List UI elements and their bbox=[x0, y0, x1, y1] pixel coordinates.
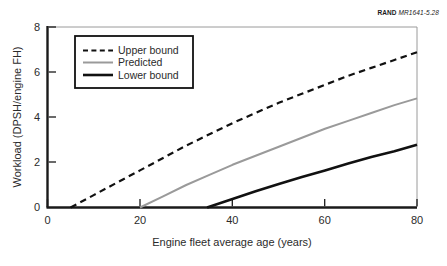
series-lower-bound bbox=[207, 145, 417, 208]
figure-container: RAND MR1641-5.28 8 6 4 2 0 bbox=[0, 0, 447, 266]
legend-label-lower-bound: Lower bound bbox=[118, 69, 179, 81]
x-tick-label-20: 20 bbox=[134, 214, 146, 226]
x-tick-label-0: 0 bbox=[44, 214, 50, 226]
line-chart: 8 6 4 2 0 0 20 40 60 80 Engine fleet ave… bbox=[0, 0, 447, 266]
x-tick-label-60: 60 bbox=[319, 214, 331, 226]
x-tick-label-80: 80 bbox=[411, 214, 423, 226]
x-axis-title: Engine fleet average age (years) bbox=[152, 236, 312, 248]
y-tick-label-6: 6 bbox=[34, 66, 40, 78]
y-axis-ticks bbox=[49, 27, 56, 162]
legend-label-predicted: Predicted bbox=[118, 56, 163, 68]
y-tick-label-2: 2 bbox=[34, 156, 40, 168]
y-tick-label-0: 0 bbox=[34, 201, 40, 213]
y-tick-label-8: 8 bbox=[34, 21, 40, 33]
y-tick-label-4: 4 bbox=[34, 111, 40, 123]
y-axis-title: Workload (DPSH/engine FH) bbox=[11, 46, 23, 187]
legend-label-upper-bound: Upper bound bbox=[118, 44, 179, 56]
x-tick-label-40: 40 bbox=[226, 214, 238, 226]
series-predicted bbox=[140, 98, 417, 207]
chart-legend: Upper bound Predicted Lower bound bbox=[75, 36, 193, 88]
